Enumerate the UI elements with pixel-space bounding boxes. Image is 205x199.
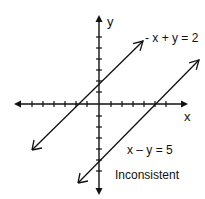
equation-label-2: x – y = 5 [127,144,173,156]
equation-label-1: - x + y = 2 [145,32,198,44]
y-axis-label: y [107,15,114,28]
line-x-minus-y-eq-5 [78,60,199,183]
caption: Inconsistent [115,169,179,181]
y-axis [96,15,103,195]
x-axis [14,101,188,108]
x-axis-label: x [184,110,191,123]
